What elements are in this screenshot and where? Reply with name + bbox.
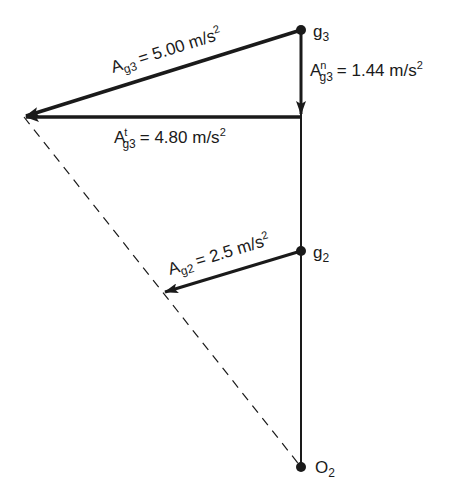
point-g2-dot bbox=[296, 246, 306, 256]
point-o2-label: O2 bbox=[315, 458, 335, 480]
vector-ag2-label: Ag2= 2.5 m/s2 bbox=[165, 228, 273, 281]
point-o2-dot bbox=[296, 462, 306, 472]
vector-ag3t-label: Atg3= 4.80 m/s2 bbox=[114, 126, 226, 151]
point-g3-label: g3 bbox=[313, 22, 329, 44]
point-g2-label: g2 bbox=[313, 243, 329, 265]
vector-diagram: g3 g2 O2 Ag3= 5.00 m/s2 Ang3= 1.44 m/s2 … bbox=[0, 0, 469, 504]
dashed-proportion-line bbox=[24, 117, 301, 467]
point-g3-dot bbox=[296, 25, 306, 35]
vector-ag3n-label: Ang3= 1.44 m/s2 bbox=[310, 59, 423, 84]
